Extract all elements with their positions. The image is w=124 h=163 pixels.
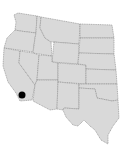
state-or xyxy=(4,30,36,52)
state-az xyxy=(33,80,58,110)
location-marker xyxy=(19,92,26,99)
state-co xyxy=(58,63,86,84)
state-sd xyxy=(79,38,114,54)
state-wy xyxy=(52,42,79,64)
state-nd xyxy=(80,24,114,38)
western-us-locator-map xyxy=(0,0,124,163)
state-wa xyxy=(14,13,37,33)
state-ks xyxy=(86,69,117,84)
state-nm xyxy=(57,82,79,110)
